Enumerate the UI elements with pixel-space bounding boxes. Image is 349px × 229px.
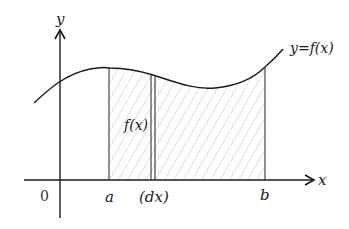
- upper-bound-label: b: [260, 186, 270, 204]
- diagram-canvas: y x 0 a (dx) b f(x) y=f(x): [0, 0, 349, 229]
- y-axis: [55, 30, 65, 218]
- integral-area-diagram: y x 0 a (dx) b f(x) y=f(x): [0, 0, 349, 229]
- strip-height-label: f(x): [123, 117, 148, 133]
- curve-label: y=f(x): [289, 40, 334, 56]
- x-axis-label: x: [318, 171, 327, 189]
- hatched-area: [100, 40, 280, 185]
- origin-label: 0: [40, 188, 49, 204]
- strip-width-label: (dx): [139, 188, 169, 206]
- lower-bound-label: a: [105, 188, 114, 206]
- y-axis-label: y: [55, 10, 65, 28]
